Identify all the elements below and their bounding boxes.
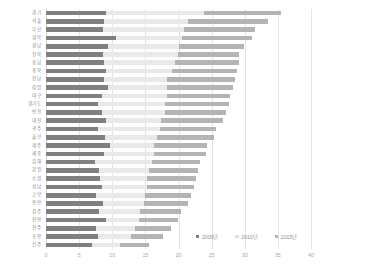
category-label: 전남 bbox=[32, 75, 41, 83]
category-label: 대전 bbox=[32, 117, 41, 125]
category-label: 천안 bbox=[32, 216, 41, 224]
bar-segment-2015년 bbox=[135, 226, 171, 231]
bar-segment-2010년 bbox=[104, 60, 176, 65]
bar-segment-2000년 bbox=[46, 243, 92, 248]
bar-segment-2010년 bbox=[106, 69, 172, 74]
bar-segment-2010년 bbox=[92, 243, 120, 248]
category-label: 청주 bbox=[32, 208, 41, 216]
bar-row bbox=[46, 69, 237, 74]
bar-row bbox=[46, 226, 171, 231]
bar-segment-2015년 bbox=[154, 152, 206, 157]
bar-series-container bbox=[46, 9, 311, 249]
legend-label: 2010년 bbox=[241, 233, 258, 240]
category-label: 김해 bbox=[32, 158, 41, 166]
bar-row bbox=[46, 36, 252, 41]
x-tick-label: 30 bbox=[242, 250, 248, 260]
bar-segment-2000년 bbox=[46, 176, 100, 181]
bar-segment-2010년 bbox=[99, 168, 149, 173]
bar-segment-2015년 bbox=[131, 234, 163, 239]
category-label: 인천 bbox=[32, 108, 41, 116]
category-label: 수원 bbox=[32, 175, 41, 183]
legend-item-2010년[interactable]: 2010년 bbox=[235, 233, 257, 240]
bar-row bbox=[46, 52, 239, 57]
bar-segment-2015년 bbox=[167, 85, 234, 90]
bar-segment-2010년 bbox=[104, 77, 167, 82]
bar-row bbox=[46, 209, 181, 214]
category-label: 전주 bbox=[32, 224, 41, 232]
bar-segment-2015년 bbox=[157, 135, 214, 140]
bar-segment-2015년 bbox=[175, 60, 239, 65]
category-label: 진주 bbox=[32, 241, 41, 249]
category-label: 광주 bbox=[32, 125, 41, 133]
bar-row bbox=[46, 185, 194, 190]
bar-segment-2000년 bbox=[46, 127, 98, 132]
chart-legend: 2000년2010년2015년 bbox=[196, 233, 297, 240]
bar-row bbox=[46, 85, 233, 90]
x-tick-label: 20 bbox=[176, 250, 182, 260]
bar-segment-2015년 bbox=[167, 77, 235, 82]
bar-segment-2000년 bbox=[46, 19, 104, 24]
bar-segment-2000년 bbox=[46, 234, 98, 239]
bar-segment-2015년 bbox=[147, 176, 196, 181]
bar-segment-2000년 bbox=[46, 160, 95, 165]
x-tick-label: 5 bbox=[78, 250, 81, 260]
bar-row bbox=[46, 11, 281, 16]
bar-segment-2015년 bbox=[154, 143, 207, 148]
x-tick-label: 35 bbox=[275, 250, 281, 260]
bar-segment-2010년 bbox=[105, 135, 157, 140]
bar-row bbox=[46, 44, 244, 49]
bar-segment-2010년 bbox=[98, 127, 160, 132]
bar-segment-2015년 bbox=[167, 94, 229, 99]
bar-row bbox=[46, 110, 226, 115]
bar-segment-2000년 bbox=[46, 135, 105, 140]
legend-item-2015년[interactable]: 2015년 bbox=[275, 233, 297, 240]
category-label: 경북 bbox=[32, 34, 41, 42]
category-label: 제주 bbox=[32, 142, 41, 150]
bar-segment-2010년 bbox=[108, 85, 167, 90]
bar-row bbox=[46, 102, 229, 107]
bar-row bbox=[46, 77, 235, 82]
bar-segment-2015년 bbox=[204, 11, 282, 16]
plot-area bbox=[46, 9, 311, 249]
bar-segment-2000년 bbox=[46, 77, 104, 82]
bar-segment-2000년 bbox=[46, 209, 99, 214]
bar-segment-2015년 bbox=[182, 36, 252, 41]
category-label: 부산 bbox=[32, 26, 41, 34]
bar-row bbox=[46, 152, 206, 157]
bar-row bbox=[46, 160, 200, 165]
bar-segment-2000년 bbox=[46, 143, 110, 148]
bar-segment-2000년 bbox=[46, 118, 106, 123]
bar-segment-2010년 bbox=[102, 94, 167, 99]
bar-segment-2010년 bbox=[116, 36, 182, 41]
bar-segment-2010년 bbox=[98, 102, 165, 107]
bar-row bbox=[46, 243, 149, 248]
bar-segment-2015년 bbox=[147, 185, 194, 190]
category-label: 성남 bbox=[32, 183, 41, 191]
category-label: 울산 bbox=[32, 133, 41, 141]
bar-segment-2010년 bbox=[98, 234, 132, 239]
bar-row bbox=[46, 234, 163, 239]
legend-item-2000년[interactable]: 2000년 bbox=[196, 233, 218, 240]
category-label: 충남 bbox=[32, 59, 41, 67]
stacked-bar-chart: 경기서울부산경북경남전북충남충북전남강원대구경기도인천대전광주울산제주세종김해창… bbox=[0, 0, 371, 279]
bar-segment-2010년 bbox=[103, 52, 178, 57]
category-label: 경남 bbox=[32, 42, 41, 50]
bar-segment-2015년 bbox=[152, 160, 200, 165]
bar-row bbox=[46, 94, 230, 99]
bar-segment-2010년 bbox=[110, 143, 154, 148]
bar-segment-2010년 bbox=[106, 11, 203, 16]
bar-segment-2010년 bbox=[102, 185, 147, 190]
bar-segment-2010년 bbox=[96, 193, 145, 198]
category-label: 경기도 bbox=[28, 100, 41, 108]
bar-segment-2010년 bbox=[108, 44, 179, 49]
bar-segment-2010년 bbox=[102, 110, 165, 115]
category-label: 서울 bbox=[32, 17, 41, 25]
bar-row bbox=[46, 193, 191, 198]
bar-segment-2000년 bbox=[46, 193, 96, 198]
bar-segment-2015년 bbox=[144, 201, 188, 206]
bar-row bbox=[46, 27, 255, 32]
legend-label: 2015년 bbox=[281, 233, 298, 240]
bar-segment-2015년 bbox=[188, 19, 268, 24]
bar-row bbox=[46, 218, 178, 223]
bar-segment-2000년 bbox=[46, 36, 116, 41]
